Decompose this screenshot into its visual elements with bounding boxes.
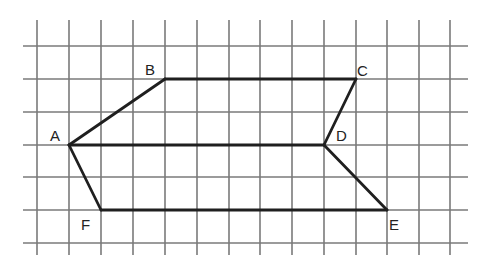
vertex-label-e: E (389, 216, 399, 233)
vertex-label-d: D (336, 127, 347, 144)
vertex-label-f: F (81, 216, 90, 233)
vertex-labels: ABCDEF (50, 61, 399, 233)
vertex-label-c: C (357, 62, 368, 79)
vertex-label-b: B (145, 61, 155, 78)
vertex-label-a: A (50, 127, 60, 144)
grid-diagram: ABCDEF (0, 0, 482, 262)
